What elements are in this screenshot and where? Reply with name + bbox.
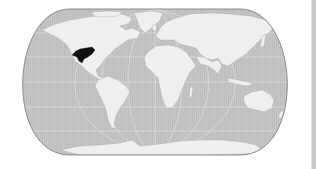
side-bar	[311, 0, 316, 169]
world-map-container	[0, 0, 316, 169]
world-map	[0, 0, 316, 169]
arctic-islands	[92, 11, 122, 17]
